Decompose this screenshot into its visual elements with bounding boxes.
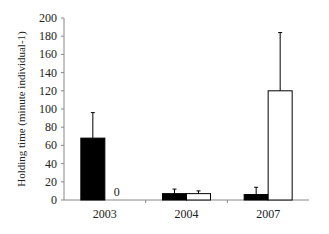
y-tick-label: 0 [51,193,57,207]
x-tick-label: 2004 [175,207,199,221]
y-tick-label: 180 [39,29,57,43]
y-tick-label: 160 [39,47,57,61]
y-axis-label: Holding time (minute individual-1) [15,31,28,187]
x-tick-label: 2003 [93,207,117,221]
y-tick-label: 60 [45,138,57,152]
bar-white-2007 [268,91,292,200]
bar-black-2004 [163,194,187,200]
x-tick-label: 2007 [256,207,280,221]
y-tick-label: 100 [39,102,57,116]
y-tick-label: 40 [45,157,57,171]
bar-chart: 020406080100120140160180200Holding time … [0,0,329,234]
bar-black-2007 [244,195,268,200]
bar-black-2003 [81,138,105,200]
y-tick-label: 20 [45,175,57,189]
bar-white-2004 [187,194,211,200]
y-tick-label: 120 [39,84,57,98]
y-tick-label: 80 [45,120,57,134]
y-tick-label: 200 [39,11,57,25]
zero-label: 0 [114,185,120,199]
y-tick-label: 140 [39,66,57,80]
